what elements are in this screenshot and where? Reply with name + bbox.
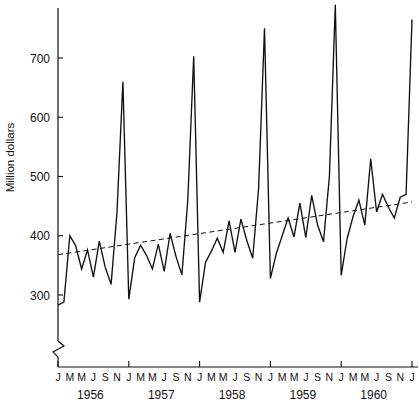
x-axis-tick-label: M: [278, 371, 287, 383]
x-axis: JMMJSN1956JMMJSN1957JMMJSN1958JMMJSN1959…: [55, 361, 418, 402]
x-axis-tick-label: S: [102, 371, 109, 383]
x-axis-tick-label: M: [207, 371, 216, 383]
x-axis-tick-label: M: [77, 371, 86, 383]
x-axis-tick-label: J: [126, 371, 131, 383]
x-axis-tick-label: M: [136, 371, 145, 383]
x-axis-tick-label: J: [268, 371, 273, 383]
series-monthly-sales: [58, 5, 412, 305]
x-axis-tick-label: J: [162, 371, 167, 383]
x-axis-year-label: 1960: [360, 388, 387, 402]
x-axis-tick-label: S: [172, 371, 179, 383]
data-series-group: [58, 5, 412, 305]
x-axis-tick-label: J: [232, 371, 237, 383]
y-axis-title: Million dollars: [4, 122, 16, 192]
x-axis-tick-label: J: [197, 371, 202, 383]
chart-container: 300400500600700 JMMJSN1956JMMJSN1957JMMJ…: [0, 0, 420, 408]
x-axis-tick-label: S: [243, 371, 250, 383]
y-axis-tick-label: 300: [30, 289, 50, 303]
line-chart: 300400500600700 JMMJSN1956JMMJSN1957JMMJ…: [0, 0, 420, 408]
x-axis-tick-label: M: [148, 371, 157, 383]
x-axis-tick-label: S: [385, 371, 392, 383]
x-axis-tick-label: J: [409, 371, 414, 383]
y-axis: 300400500600700: [30, 8, 64, 367]
x-axis-tick-label: N: [113, 371, 121, 383]
x-axis-tick-label: S: [314, 371, 321, 383]
x-axis-tick-label: J: [303, 371, 308, 383]
axis-labels-group: Million dollars: [4, 122, 16, 192]
x-axis-tick-label: N: [255, 371, 263, 383]
x-axis-tick-label: N: [184, 371, 192, 383]
x-axis-tick-label: J: [339, 371, 344, 383]
x-axis-tick-label: J: [374, 371, 379, 383]
y-axis-tick-label: 500: [30, 170, 50, 184]
x-axis-tick-label: M: [349, 371, 358, 383]
x-axis-year-label: 1956: [77, 388, 104, 402]
y-axis-tick-label: 700: [30, 52, 50, 66]
x-axis-year-label: 1957: [148, 388, 175, 402]
x-axis-year-label: 1958: [219, 388, 246, 402]
y-axis-tick-label: 400: [30, 229, 50, 243]
x-axis-tick-label: J: [91, 371, 96, 383]
x-axis-tick-label: N: [396, 371, 404, 383]
x-axis-tick-label: M: [219, 371, 228, 383]
series-trend-line: [58, 202, 412, 255]
y-axis-tick-label: 600: [30, 111, 50, 125]
x-axis-tick-label: J: [55, 371, 60, 383]
x-axis-tick-label: M: [65, 371, 74, 383]
x-axis-tick-label: M: [360, 371, 369, 383]
x-axis-tick-label: N: [326, 371, 334, 383]
x-axis-year-label: 1959: [289, 388, 316, 402]
x-axis-tick-label: M: [290, 371, 299, 383]
